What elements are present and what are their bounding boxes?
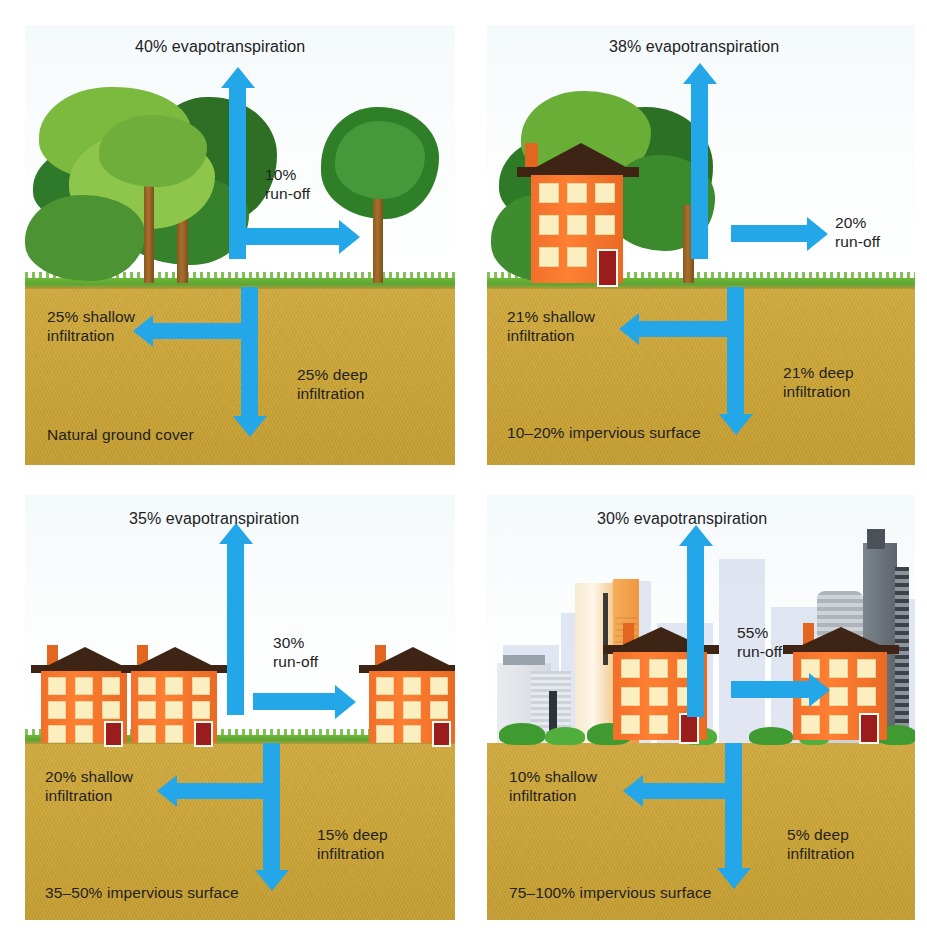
- door: [859, 713, 879, 744]
- surface-type-label: Natural ground cover: [47, 425, 194, 444]
- shallow-infiltration-arrow: [153, 323, 245, 339]
- deep-infiltration-arrow: [241, 287, 258, 417]
- shallow-infiltration-label-arrow: [177, 783, 267, 799]
- runoff-arrow: [253, 693, 335, 710]
- shallow-infiltration-label: 20% shallow infiltration: [45, 767, 133, 805]
- evapotranspiration-label: 38% evapotranspiration: [609, 37, 779, 56]
- deep-infiltration-label: 25% deep infiltration: [297, 365, 368, 403]
- panel-high-density: 30% evapotranspiration 55% run-off 10% s…: [487, 495, 915, 920]
- deep-infiltration-arrow: [725, 743, 742, 869]
- surface-type-label: 35–50% impervious surface: [45, 883, 239, 902]
- shallow-infiltration-label: 25% shallow infiltration: [47, 307, 135, 345]
- deep-infiltration-label: 15% deep infiltration: [317, 825, 388, 863]
- runoff-arrow: [731, 225, 807, 242]
- shallow-infiltration-label: 21% shallow infiltration: [507, 307, 595, 345]
- shallow-infiltration-arrow: [639, 321, 731, 337]
- panel-low-density: 38% evapotranspiration 20% run-off 21% s…: [487, 25, 915, 465]
- runoff-label: 55% run-off: [737, 623, 782, 661]
- water-balance-diagram: 40% evapotranspiration 10% run-off 25% s…: [0, 0, 927, 943]
- door: [679, 713, 699, 744]
- office-block-cap: [503, 655, 545, 665]
- shrub: [499, 723, 545, 745]
- deep-infiltration-label: 21% deep infiltration: [783, 363, 854, 401]
- shallow-infiltration-label: 10% shallow infiltration: [509, 767, 597, 805]
- dark-skyscraper-fins: [895, 567, 909, 745]
- shrub: [749, 727, 793, 745]
- panel-natural-ground-cover: 40% evapotranspiration 10% run-off 25% s…: [25, 25, 455, 465]
- deep-infiltration-arrow: [727, 287, 744, 415]
- door: [104, 721, 123, 747]
- deep-infiltration-label: 5% deep infiltration: [787, 825, 855, 863]
- runoff-arrow: [731, 681, 809, 698]
- runoff-label: 20% run-off: [835, 213, 880, 251]
- evapotranspiration-arrow: [227, 543, 244, 715]
- orange-tower: [575, 583, 615, 745]
- deep-infiltration-arrow: [263, 743, 280, 871]
- shallow-infiltration-arrow: [643, 783, 729, 799]
- surface-type-label: 75–100% impervious surface: [509, 883, 712, 902]
- dark-skyscraper-crown: [867, 529, 885, 549]
- door: [432, 721, 451, 747]
- runoff-arrow: [239, 228, 339, 245]
- runoff-label: 30% run-off: [273, 633, 318, 671]
- evapotranspiration-label: 30% evapotranspiration: [597, 509, 767, 528]
- surface-type-label: 10–20% impervious surface: [507, 423, 701, 442]
- runoff-label: 10% run-off: [265, 165, 310, 203]
- evapotranspiration-arrow: [687, 545, 704, 717]
- panel-medium-density: 35% evapotranspiration 30% run-off 20% s…: [25, 495, 455, 920]
- door: [194, 721, 213, 747]
- shrub: [545, 727, 585, 745]
- evapotranspiration-label: 40% evapotranspiration: [135, 37, 305, 56]
- evapotranspiration-arrow: [691, 83, 708, 259]
- door: [597, 249, 618, 287]
- evapotranspiration-label: 35% evapotranspiration: [129, 509, 299, 528]
